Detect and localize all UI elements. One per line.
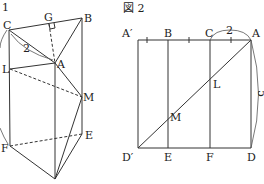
edge-F-bottom [10, 146, 55, 179]
label-A: A [251, 27, 261, 40]
label-D-prime: D′ [122, 151, 134, 164]
geometry-diagram: 1 C G B A L M E F 2 図 2 [0, 0, 264, 184]
dashed-GA [49, 24, 55, 63]
figure-2-title: 図 2 [123, 2, 145, 15]
label-C: C [3, 19, 11, 32]
label-F: F [206, 151, 214, 164]
figure-2: 図 2 A′ B C A L M D′ E F D 2 5 [121, 2, 264, 164]
edge-BA [55, 18, 82, 63]
label-L: L [2, 63, 10, 76]
label-A-prime: A′ [121, 27, 133, 40]
dashed-FE [10, 134, 82, 146]
length-label-side: 5 [255, 90, 264, 97]
edge-CA [9, 30, 55, 63]
label-E: E [164, 151, 172, 164]
edge-LA [10, 63, 55, 69]
label-B: B [84, 12, 92, 25]
diagonal-D'A [138, 40, 251, 148]
label-C: C [205, 27, 213, 40]
label-M: M [83, 91, 94, 104]
length-label-top: 2 [226, 24, 233, 37]
label-F: F [1, 142, 9, 155]
label-A: A [56, 58, 66, 71]
figure-1-title: 1 [2, 1, 9, 14]
edge-E-bottom [55, 134, 82, 179]
label-D: D [247, 151, 256, 164]
label-B: B [164, 27, 172, 40]
edge-CF [9, 30, 10, 146]
label-E: E [85, 129, 93, 142]
label-G: G [44, 11, 53, 24]
left-arc-top [0, 30, 7, 48]
label-L: L [213, 78, 221, 91]
length-label: 2 [23, 42, 30, 55]
edge-M-bottom [55, 97, 82, 179]
figure-1: 1 C G B A L M E F 2 [0, 1, 94, 179]
label-M: M [170, 111, 181, 124]
